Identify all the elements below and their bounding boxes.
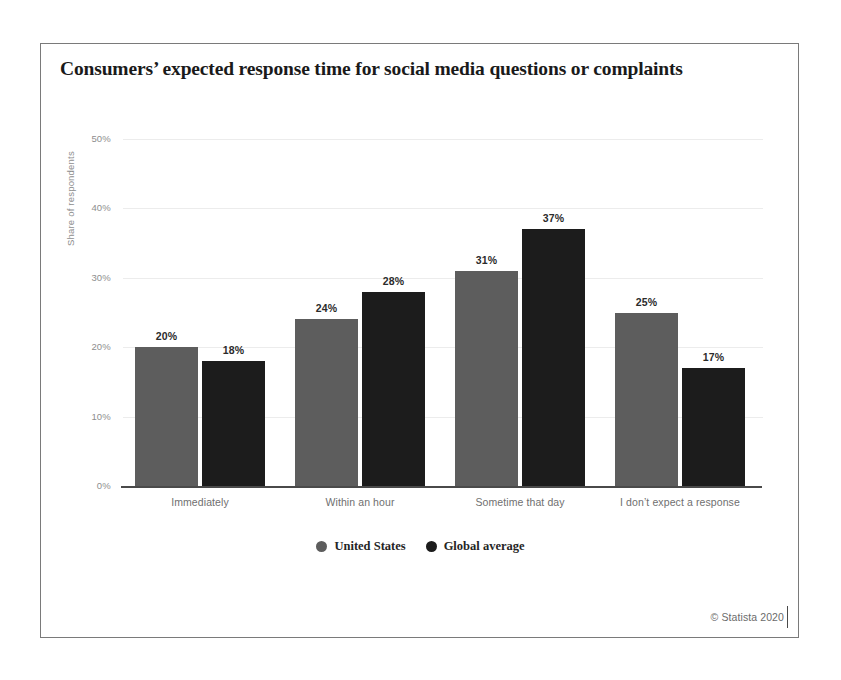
bar <box>202 361 265 486</box>
bar-value-label: 24% <box>295 302 358 314</box>
chart-card: Consumers’ expected response time for so… <box>40 43 799 638</box>
legend-swatch-icon <box>426 541 437 552</box>
bar-value-label: 37% <box>522 212 585 224</box>
legend-label: United States <box>334 539 405 554</box>
legend-item[interactable]: United States <box>316 539 405 554</box>
y-axis-tick-label: 0% <box>65 480 111 491</box>
bar-value-label: 17% <box>682 351 745 363</box>
x-axis-category-label: Within an hour <box>273 496 447 508</box>
bar <box>615 313 678 487</box>
text-cursor-caret <box>787 606 789 628</box>
x-axis-category-label: Sometime that day <box>433 496 607 508</box>
legend-swatch-icon <box>316 541 327 552</box>
bar <box>362 292 425 486</box>
x-axis-category-label: Immediately <box>113 496 287 508</box>
bar <box>135 347 198 486</box>
bar <box>522 229 585 486</box>
bar-value-label: 31% <box>455 254 518 266</box>
y-axis-title: Share of respondents <box>65 151 76 246</box>
y-axis-tick-label: 50% <box>65 133 111 144</box>
y-axis-tick-label: 10% <box>65 411 111 422</box>
x-axis-category-label: I don’t expect a response <box>593 496 767 508</box>
bar <box>682 368 745 486</box>
y-axis-tick-label: 20% <box>65 341 111 352</box>
chart-title: Consumers’ expected response time for so… <box>60 58 780 80</box>
gridline <box>123 139 763 140</box>
legend-label: Global average <box>444 539 525 554</box>
bar-value-label: 20% <box>135 330 198 342</box>
bar <box>295 319 358 486</box>
chart-legend: United StatesGlobal average <box>41 539 800 554</box>
bar-value-label: 25% <box>615 296 678 308</box>
bar-value-label: 28% <box>362 275 425 287</box>
x-axis-line <box>121 486 762 488</box>
gridline <box>123 208 763 209</box>
bar <box>455 271 518 486</box>
bar-value-label: 18% <box>202 344 265 356</box>
plot-area: 0%10%20%30%40%50% Share of respondents 2… <box>121 96 763 496</box>
legend-item[interactable]: Global average <box>426 539 525 554</box>
y-axis-tick-label: 30% <box>65 272 111 283</box>
gridline <box>123 278 763 279</box>
statista-credit: © Statista 2020 <box>711 611 784 623</box>
